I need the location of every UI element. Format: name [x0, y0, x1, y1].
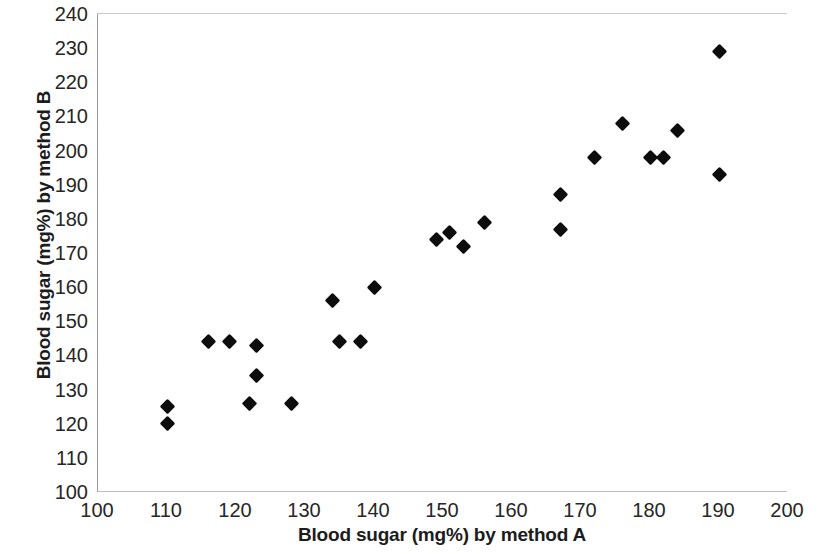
data-point [352, 334, 368, 350]
y-tick-label: 120 [36, 414, 88, 434]
y-tick-label: 130 [36, 380, 88, 400]
x-tick-label: 110 [136, 500, 196, 520]
data-point [283, 395, 299, 411]
data-point [670, 122, 686, 138]
data-point [242, 395, 258, 411]
data-point [325, 293, 341, 309]
y-tick-label: 190 [36, 175, 88, 195]
x-tick-label: 120 [205, 500, 265, 520]
x-tick-label: 100 [67, 500, 127, 520]
data-point [332, 334, 348, 350]
plot-area [97, 14, 787, 492]
x-axis-title: Blood sugar (mg%) by method A [97, 524, 787, 546]
data-point [428, 232, 444, 248]
x-axis-tick-labels: 100110120130140150160170180190200 [0, 500, 820, 526]
data-point [201, 334, 217, 350]
y-tick-label: 150 [36, 311, 88, 331]
y-tick-label: 160 [36, 277, 88, 297]
data-point [442, 225, 458, 241]
data-point [587, 150, 603, 166]
x-tick-label: 160 [481, 500, 541, 520]
y-tick-label: 170 [36, 243, 88, 263]
x-tick-label: 130 [274, 500, 334, 520]
x-tick-label: 190 [688, 500, 748, 520]
y-tick-label: 210 [36, 106, 88, 126]
y-tick-label: 180 [36, 209, 88, 229]
data-point [221, 334, 237, 350]
x-tick-label: 170 [550, 500, 610, 520]
data-point [553, 221, 569, 237]
data-point [366, 279, 382, 295]
data-point [615, 115, 631, 131]
data-point [159, 416, 175, 432]
data-point [711, 167, 727, 183]
y-tick-label: 140 [36, 345, 88, 365]
data-point [711, 44, 727, 60]
x-tick-label: 150 [412, 500, 472, 520]
x-tick-label: 140 [343, 500, 403, 520]
data-point [456, 238, 472, 254]
scatter-chart: Blood sugar (mg%) by method B 1001101201… [0, 0, 820, 554]
data-point [159, 399, 175, 415]
y-tick-label: 220 [36, 72, 88, 92]
y-axis-tick-labels: 1001101201301401501601701801902002102202… [30, 0, 88, 554]
data-point [249, 368, 265, 384]
data-point [249, 337, 265, 353]
data-point [656, 150, 672, 166]
data-point [553, 187, 569, 203]
y-tick-label: 230 [36, 38, 88, 58]
y-tick-label: 110 [36, 448, 88, 468]
y-tick-label: 240 [36, 4, 88, 24]
x-tick-label: 180 [619, 500, 679, 520]
x-tick-label: 200 [757, 500, 817, 520]
data-point [477, 214, 493, 230]
y-tick-label: 200 [36, 141, 88, 161]
